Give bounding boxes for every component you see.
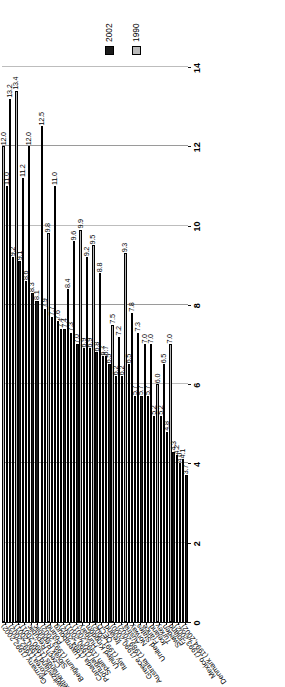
value-tick-label-12: 12 xyxy=(192,142,202,152)
bar-value-label-1990: 8.8 xyxy=(96,263,103,272)
bar-1990: 8.8 xyxy=(99,273,101,622)
bar-value-label-1990: 9.2 xyxy=(83,247,90,256)
bar-value-label-1990: 9.3 xyxy=(122,243,129,252)
category-tick xyxy=(24,622,25,626)
category-tick xyxy=(101,622,102,626)
category-tick xyxy=(5,622,6,626)
value-tick-12 xyxy=(188,146,191,147)
bar-1990: 9.5 xyxy=(92,245,94,622)
bar-1990: 9.9 xyxy=(79,230,81,622)
bar-2002: 8.1 xyxy=(35,301,39,622)
category-tick xyxy=(178,622,179,626)
bar-value-label-1990: 7.3 xyxy=(135,322,142,331)
category-tick xyxy=(172,622,173,626)
category-tick xyxy=(159,622,160,626)
bar-value-label-1990: 4.1 xyxy=(180,449,187,458)
category-tick xyxy=(95,622,96,626)
category-tick xyxy=(108,622,109,626)
category-tick xyxy=(114,622,115,626)
legend-swatch-2002-icon xyxy=(105,46,114,55)
bar-1990: 12.0 xyxy=(2,146,4,622)
bar-1990: 11.0 xyxy=(54,186,56,622)
chart-canvas: Germany (1992,2002)Korea (1992,2002)Swit… xyxy=(0,0,250,687)
value-tick-label-14: 14 xyxy=(192,63,202,73)
category-tick xyxy=(133,622,134,626)
bar-1990: 7.0 xyxy=(169,345,171,623)
chart-legend: 2002 1990 xyxy=(104,23,141,55)
bar-value-label-1990: 8.4 xyxy=(64,279,71,288)
bar-value-label-1990: 9.8 xyxy=(45,223,52,232)
plot-area: 12.011.013.29.213.49.111.28.612.08.38.11… xyxy=(2,68,188,623)
category-tick xyxy=(18,622,19,626)
bar-1990: 13.2 xyxy=(9,99,11,622)
bar-value-label-1990: 9.9 xyxy=(77,219,84,228)
bar-1990: 11.2 xyxy=(22,178,24,622)
bar-1990: 8.4 xyxy=(67,289,69,622)
bar-value-label-1990: 7.2 xyxy=(115,326,122,335)
value-tick-14 xyxy=(188,67,191,68)
category-tick xyxy=(37,622,38,626)
bar-1990: 9.2 xyxy=(86,257,88,622)
category-tick xyxy=(31,622,32,626)
value-tick-label-6: 6 xyxy=(192,383,202,388)
bar-value-label-1990: 11.0 xyxy=(51,172,58,185)
category-tick xyxy=(89,622,90,626)
bar-1990: 7.3 xyxy=(137,333,139,622)
bar-rows: 12.011.013.29.213.49.111.28.612.08.38.11… xyxy=(2,68,188,622)
bar-value-label-1990: 7.0 xyxy=(148,334,155,343)
bar-1990: 7.4 xyxy=(60,329,62,622)
legend-label-2002: 2002 xyxy=(104,23,114,42)
category-tick xyxy=(50,622,51,626)
bar-value-label-1990: 7.8 xyxy=(128,302,135,311)
category-tick xyxy=(63,622,64,626)
bar-value-label-1990: 6.5 xyxy=(160,354,167,363)
category-tick xyxy=(127,622,128,626)
bar-1990: 6.0 xyxy=(156,384,158,622)
bar-1990: 6.5 xyxy=(163,364,165,622)
value-tick-2 xyxy=(188,543,191,544)
bar-1990: 7.8 xyxy=(131,313,133,622)
category-tick xyxy=(121,622,122,626)
category-tick xyxy=(76,622,77,626)
category-tick xyxy=(153,622,154,626)
bar-1990: 13.4 xyxy=(15,91,17,622)
bar-1990: 4.1 xyxy=(182,459,184,622)
bar-value-label-1990: 9.6 xyxy=(71,231,78,240)
legend-label-1990: 1990 xyxy=(131,23,141,42)
legend-item-1990: 1990 xyxy=(131,23,141,55)
category-tick xyxy=(166,622,167,626)
value-tick-label-4: 4 xyxy=(192,462,202,467)
value-tick-0 xyxy=(188,622,191,623)
category-tick xyxy=(12,622,13,626)
bar-1990: 9.6 xyxy=(73,241,75,622)
figure-stage: Germany (1992,2002)Korea (1992,2002)Swit… xyxy=(0,0,250,687)
bar-value-label-1990: 7.0 xyxy=(167,334,174,343)
gridline-14 xyxy=(2,66,188,67)
value-tick-label-10: 10 xyxy=(192,222,202,232)
legend-swatch-1990-icon xyxy=(132,46,141,55)
legend-item-2002: 2002 xyxy=(104,23,114,55)
bar-1990: 9.8 xyxy=(47,234,49,623)
bar-1990: 12.0 xyxy=(28,146,30,622)
value-tick-10 xyxy=(188,226,191,227)
bar-1990: 6.7 xyxy=(105,356,107,622)
bar-1990: 7.2 xyxy=(118,337,120,622)
category-axis-labels: Germany (1992,2002)Korea (1992,2002)Swit… xyxy=(0,623,190,687)
category-tick xyxy=(44,622,45,626)
bar-value-label-1990: 9.5 xyxy=(90,235,97,244)
bar-1990: 7.0 xyxy=(150,345,152,623)
category-tick xyxy=(82,622,83,626)
value-tick-label-2: 2 xyxy=(192,541,202,546)
bar-1990: 12.5 xyxy=(41,126,43,622)
bar-value-label-1990: 13.4 xyxy=(13,77,20,90)
bar-value-label-1990: 12.0 xyxy=(0,132,7,145)
caption-stage: Figure 8.1Average length of stay for acu… xyxy=(249,0,285,687)
value-tick-4 xyxy=(188,463,191,464)
bar-value-label-1990: 12.0 xyxy=(26,132,33,145)
category-tick xyxy=(146,622,147,626)
value-tick-label-8: 8 xyxy=(192,303,202,308)
category-tick xyxy=(69,622,70,626)
value-tick-6 xyxy=(188,384,191,385)
value-tick-label-0: 0 xyxy=(192,620,202,625)
category-tick xyxy=(185,622,186,626)
